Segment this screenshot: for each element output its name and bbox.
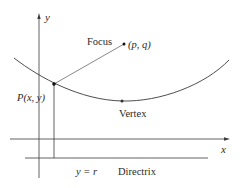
parabola-diagram: y x Focus (p, q) P(x, y) Vertex y = r Di…	[0, 0, 245, 188]
x-axis-arrow-icon	[224, 137, 230, 140]
point-p-marker	[52, 82, 56, 86]
focus-coords-label: (p, q)	[128, 39, 151, 51]
parabola-curve	[14, 58, 229, 101]
directrix-equation-label: y = r	[75, 166, 98, 177]
x-axis-label: x	[220, 143, 226, 155]
focus-marker	[123, 43, 126, 46]
point-p-label: P(x, y)	[16, 92, 45, 104]
y-axis-label: y	[44, 11, 50, 23]
directrix-label: Directrix	[118, 166, 157, 177]
vertex-label: Vertex	[119, 108, 147, 119]
focus-label: Focus	[87, 36, 112, 47]
focus-segment	[54, 44, 124, 84]
y-axis-arrow-icon	[37, 13, 40, 19]
vertex-marker	[121, 100, 124, 103]
